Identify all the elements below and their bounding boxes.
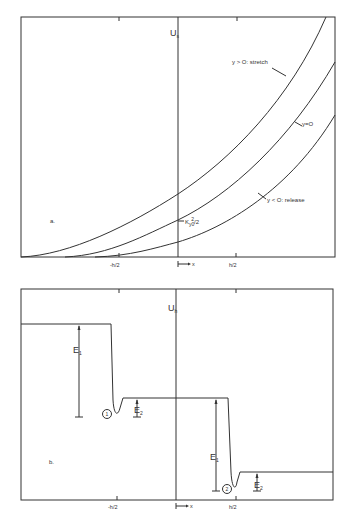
well-1-label: 1 xyxy=(106,411,109,417)
stretch-leader xyxy=(272,68,286,76)
e1-arrow-1-icon xyxy=(78,325,81,330)
x-arrow-b-icon xyxy=(186,505,189,508)
tick-label-neg-h2-b: -h/2 xyxy=(108,504,117,510)
well-2-label: 2 xyxy=(226,486,229,492)
e2-label-2: E2 xyxy=(254,480,263,491)
e2-arrow-2-icon xyxy=(256,473,259,478)
tick-label-neg-h2: -h/2 xyxy=(110,262,119,268)
intercept-label: Ky02/2 xyxy=(185,216,200,227)
e1-label-2: E1 xyxy=(210,452,219,463)
panel-b-tag: b. xyxy=(49,459,54,465)
e2-label-1: E2 xyxy=(134,405,143,416)
panel-a: Us y > O: stretch y=O y < O: release Ky0… xyxy=(21,17,335,268)
curve-stretch xyxy=(21,17,326,257)
x-arrow-icon xyxy=(188,263,191,266)
curve-zero xyxy=(65,62,335,257)
zero-leader xyxy=(295,122,302,126)
panel-b: E1 E2 1 E1 E2 2 Uh b. -h/2 h/2 x xyxy=(21,289,333,510)
e1-arrow-2-icon xyxy=(215,399,218,404)
tick-label-pos-h2-b: h/2 xyxy=(229,504,237,510)
x-label-b: x xyxy=(190,503,193,509)
figure: Us y > O: stretch y=O y < O: release Ky0… xyxy=(0,0,352,528)
zero-label: y=O xyxy=(302,121,314,127)
e2-arrow-1-icon xyxy=(136,399,139,404)
release-label: y < O: release xyxy=(267,197,305,203)
e1-label-1: E1 xyxy=(73,345,82,356)
panel-a-tag: a. xyxy=(50,218,55,224)
curve-release xyxy=(95,115,335,257)
stretch-label: y > O: stretch xyxy=(232,59,268,65)
panel-b-frame xyxy=(21,289,333,500)
potential-profile xyxy=(21,324,333,487)
x-label: x xyxy=(192,261,195,267)
tick-label-pos-h2: h/2 xyxy=(229,262,237,268)
